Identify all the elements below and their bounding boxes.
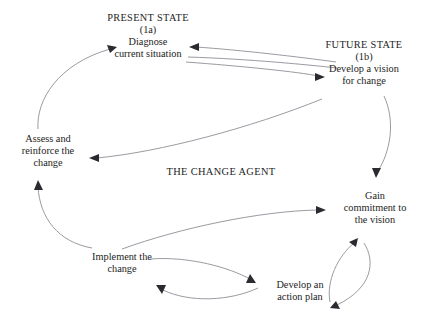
arrowhead-to-implement (156, 285, 166, 294)
present-state-line-2: current situation (78, 48, 218, 60)
gain-line-1: Gain (328, 190, 422, 202)
assess-line-3: change (0, 157, 96, 169)
arrowhead-to-gain-commitment (316, 206, 326, 214)
edge-action-to-implement-lower (163, 288, 258, 299)
future-state-heading: FUTURE STATE (306, 39, 422, 51)
present-state-line-1: Diagnose (78, 36, 218, 48)
edge-implement-to-assess (38, 187, 92, 248)
center-label-change-agent: THE CHANGE AGENT (151, 166, 291, 178)
implement-line-2: change (73, 263, 171, 275)
action-plan-line-1: Develop an (258, 279, 342, 291)
edge-implement-to-gain (122, 210, 318, 249)
assess-line-2: reinforce the (0, 145, 96, 157)
action-plan-line-2: action plan (258, 291, 342, 303)
future-state-line-1: Develop a vision (306, 63, 422, 75)
node-assess-reinforce: Assess and reinforce the change (0, 133, 96, 169)
node-gain-commitment: Gain commitment to the vision (328, 190, 422, 226)
node-implement-change: Implement the change (73, 251, 171, 275)
gain-line-3: the vision (328, 214, 422, 226)
present-state-marker: (1a) (78, 24, 218, 36)
future-state-marker: (1b) (306, 51, 422, 63)
edge-assess-to-diagnose (38, 49, 110, 129)
edge-future-to-gain (378, 96, 391, 171)
node-future-state: FUTURE STATE (1b) Develop a vision for c… (306, 39, 422, 88)
arrowhead-to-action-plan (246, 274, 256, 283)
future-state-line-2: for change (306, 75, 422, 87)
arrowhead-to-gain (372, 168, 381, 178)
assess-line-1: Assess and (0, 133, 96, 145)
gain-line-2: commitment to (328, 202, 422, 214)
arrowhead-to-assess-lower (34, 180, 43, 190)
change-agent-diagram: PRESENT STATE (1a) Diagnose current situ… (0, 0, 422, 324)
node-present-state: PRESENT STATE (1a) Diagnose current situ… (78, 12, 218, 61)
present-state-heading: PRESENT STATE (78, 12, 218, 24)
change-agent-text: THE CHANGE AGENT (151, 166, 291, 178)
implement-line-1: Implement the (73, 251, 171, 263)
node-develop-action-plan: Develop an action plan (258, 279, 342, 303)
edge-future-to-assess (97, 99, 322, 158)
